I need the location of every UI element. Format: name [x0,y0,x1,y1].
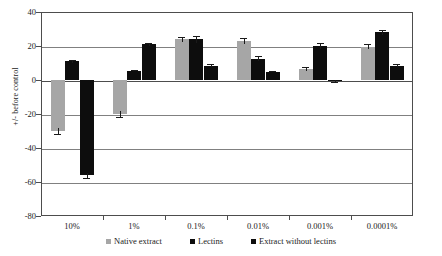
x-tick-label: 10% [64,221,80,231]
y-tick-label: -40 [2,144,36,153]
x-tick-label: 0.1% [187,221,205,231]
gridline--20 [42,115,412,116]
gridline--40 [42,149,412,150]
x-tick-mark [227,216,228,220]
legend-swatch-icon [251,239,256,244]
gridline--60 [42,183,412,184]
y-tick-label: -80 [2,212,36,221]
x-tick-label: 0.01% [247,221,269,231]
y-tick-label: -20 [2,110,36,119]
x-tick-mark [103,216,104,220]
legend-label: Native extract [114,236,162,246]
y-tick-label: 40 [2,8,36,17]
y-tick-label: 20 [2,42,36,51]
x-tick-mark [289,216,290,220]
y-axis-title: +/- before control [11,37,20,157]
legend-label: Lectins [198,236,223,246]
legend-item: Lectins [190,236,223,246]
x-tick-mark [351,216,352,220]
legend-label: Extract without lectins [259,236,336,246]
x-tick-label: 0.001% [307,221,333,231]
legend-item: Extract without lectins [251,236,336,246]
x-tick-label: 1% [128,221,139,231]
legend-swatch-icon [106,239,111,244]
x-tick-label: 0.0001% [367,221,397,231]
legend: Native extractLectinsExtract without lec… [0,236,442,246]
gridline-0 [42,81,412,82]
y-tick-label: -60 [2,178,36,187]
legend-swatch-icon [190,239,195,244]
plot-area [41,12,413,216]
y-tick-label: 0 [2,76,36,85]
x-tick-mark [165,216,166,220]
legend-item: Native extract [106,236,162,246]
gridline-20 [42,47,412,48]
bar-chart: +/- before control 40200-20-40-60-80 10%… [0,0,442,256]
y-tick-mark [36,216,41,217]
